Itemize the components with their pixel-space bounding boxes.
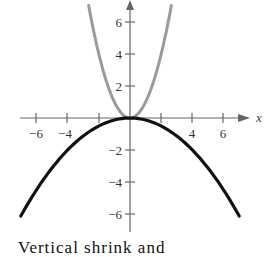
x-tick-label: 6 [220,126,227,141]
y-tick-label: 4 [116,47,123,62]
y-tick-label: −2 [108,143,122,158]
x-axis-label: x [255,110,262,125]
y-tick-label: 2 [116,79,123,94]
x-tick-label: −4 [58,126,72,141]
y-axis-arrow-icon [126,0,134,10]
x-tick-label: 4 [189,126,196,141]
x-tick-label: −6 [29,126,43,141]
y-tick-label: 6 [116,15,123,30]
figure-caption: Vertical shrink and [18,238,165,257]
y-tick-label: −4 [108,175,122,190]
y-tick-label: −6 [108,207,122,222]
x-axis-arrow-icon [238,114,250,122]
